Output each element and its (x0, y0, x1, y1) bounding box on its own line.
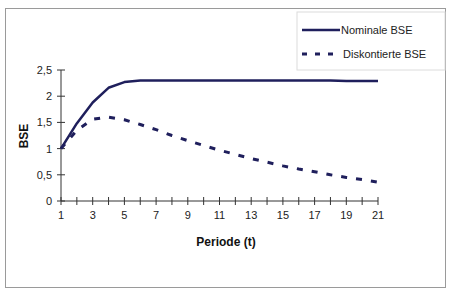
line-chart: 00,511,522,5 13579111315171921 BSE Perio… (0, 0, 452, 296)
x-tick-label: 9 (185, 209, 191, 221)
legend: Nominale BSE Diskontierte BSE (297, 12, 445, 70)
x-axis: 13579111315171921 (58, 197, 384, 221)
x-tick-label: 1 (58, 209, 64, 221)
x-tick-label: 17 (308, 209, 320, 221)
y-tick-label: 2 (46, 90, 52, 102)
x-tick-label: 21 (372, 209, 384, 221)
y-axis: 00,511,522,5 (37, 64, 65, 207)
y-axis-title: BSE (17, 124, 31, 149)
legend-label-nominal: Nominale BSE (341, 24, 413, 36)
y-tick-label: 0,5 (37, 169, 52, 181)
x-tick-label: 3 (90, 209, 96, 221)
y-tick-label: 0 (46, 195, 52, 207)
x-tick-label: 11 (214, 209, 225, 221)
y-tick-label: 2,5 (37, 64, 52, 76)
x-tick-label: 5 (121, 209, 127, 221)
series-layer (61, 81, 378, 183)
series-discounted-line (61, 117, 378, 182)
x-tick-label: 19 (340, 209, 352, 221)
x-tick-label: 13 (245, 209, 257, 221)
series-nominal-line (61, 81, 378, 149)
legend-label-discounted: Diskontierte BSE (343, 48, 426, 60)
x-axis-title: Periode (t) (196, 235, 255, 249)
x-tick-label: 15 (277, 209, 289, 221)
y-tick-label: 1,5 (37, 116, 52, 128)
x-tick-label: 7 (153, 209, 159, 221)
y-tick-label: 1 (46, 143, 52, 155)
